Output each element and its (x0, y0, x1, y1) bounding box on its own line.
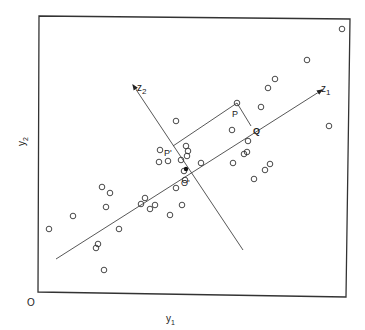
label-P: P (232, 109, 238, 119)
y-axis-label: y2 (16, 137, 29, 146)
data-point (147, 206, 153, 212)
data-point (173, 185, 179, 191)
data-point (167, 212, 173, 218)
data-point (272, 76, 278, 82)
label-Q: Q (253, 126, 260, 136)
label-P-prime: P' (164, 148, 172, 158)
data-point (198, 160, 204, 166)
data-point (101, 267, 107, 273)
diagram-canvas: z2 z1 P Q P' O' O y1 y2 (0, 0, 365, 330)
data-point (245, 138, 251, 144)
projection-lines (173, 103, 251, 146)
z1-axis-line (56, 90, 322, 259)
data-point (165, 158, 171, 164)
data-point (142, 195, 148, 201)
data-point (258, 104, 264, 110)
scatter-points (46, 26, 345, 273)
center-point-O-prime (184, 167, 188, 171)
label-origin: O (27, 297, 35, 308)
data-point (267, 161, 273, 167)
data-point (107, 190, 113, 196)
data-point (251, 176, 257, 182)
projection-line (173, 103, 237, 146)
data-point (99, 184, 105, 190)
label-O-prime: O' (181, 178, 190, 188)
data-point (339, 26, 345, 32)
label-z1: z1 (321, 83, 331, 97)
data-point (179, 202, 185, 208)
data-point (230, 160, 236, 166)
data-point (265, 85, 271, 91)
data-point (156, 159, 162, 165)
x-axis-label: y1 (166, 313, 175, 326)
plot-frame (38, 16, 350, 297)
data-point (46, 226, 52, 232)
projection-line (237, 103, 251, 126)
data-point (173, 118, 179, 124)
data-point (116, 226, 122, 232)
data-point (152, 202, 158, 208)
data-point (70, 213, 76, 219)
data-point (326, 123, 332, 129)
data-point (157, 147, 163, 153)
data-point (262, 167, 268, 173)
data-point (229, 127, 235, 133)
data-point (304, 57, 310, 63)
data-point (103, 204, 109, 210)
